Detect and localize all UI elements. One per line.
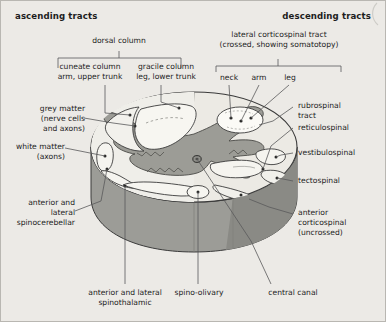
- label-lateral-corticospinal-tract-line1: lateral corticospinal tract: [206, 31, 352, 40]
- label-lateral-corticospinal-tract-line2: (crossed, showing somatotopy): [200, 41, 358, 50]
- marker-dot-anterior-corticospinal: [240, 194, 243, 197]
- heading-ascending-tracts: ascending tracts: [15, 11, 97, 21]
- label-grey-matter-line1: grey matter: [5, 105, 85, 114]
- label-somatotopy-arm: arm: [243, 74, 275, 83]
- label-spinocerebellar-line3: spinocerebellar: [3, 219, 75, 228]
- label-spinocerebellar-line2: lateral: [3, 209, 75, 218]
- label-cuneate-column-line1: cuneate column: [51, 63, 129, 72]
- label-rubrospinal-line2: tract: [298, 112, 316, 121]
- label-dorsal-column: dorsal column: [69, 37, 169, 46]
- label-white-matter-line1: white matter: [3, 143, 65, 152]
- label-grey-matter-line2: (nerve cells: [5, 115, 85, 124]
- label-central-canal: central canal: [253, 289, 333, 298]
- label-vestibulospinal: vestibulospinal: [298, 149, 355, 158]
- rubrospinal-reticulospinal-band: [210, 160, 262, 178]
- label-spinocerebellar-line1: anterior and: [3, 199, 75, 208]
- label-gracile-column-line2: leg, lower trunk: [125, 73, 207, 82]
- label-spinothalamic-line2: spinothalamic: [75, 299, 175, 308]
- label-tectospinal: tectospinal: [298, 177, 340, 186]
- spinal-cord-figure: ascending tracts descending tracts dorsa…: [0, 0, 386, 322]
- label-reticulospinal: reticulospinal: [298, 124, 349, 133]
- label-rubrospinal-line1: rubrospinal: [298, 102, 341, 111]
- label-gracile-column-line1: gracile column: [127, 63, 205, 72]
- label-somatotopy-leg: leg: [275, 74, 305, 83]
- bracket-lateral-corticospinal: [216, 59, 341, 72]
- heading-descending-tracts: descending tracts: [282, 11, 371, 21]
- label-white-matter-line2: (axons): [3, 153, 65, 162]
- label-anterior-corticospinal-line1: anterior: [298, 209, 328, 218]
- label-somatotopy-neck: neck: [211, 74, 247, 83]
- label-cuneate-column-line2: arm, upper trunk: [48, 73, 132, 82]
- label-grey-matter-line3: and axons): [5, 125, 85, 134]
- corner-arc-artifact: [373, 3, 378, 25]
- label-anterior-corticospinal-line2: corticospinal: [298, 219, 346, 228]
- label-anterior-corticospinal-line3: (uncrossed): [298, 229, 343, 238]
- label-spino-olivary: spino-olivary: [161, 289, 237, 298]
